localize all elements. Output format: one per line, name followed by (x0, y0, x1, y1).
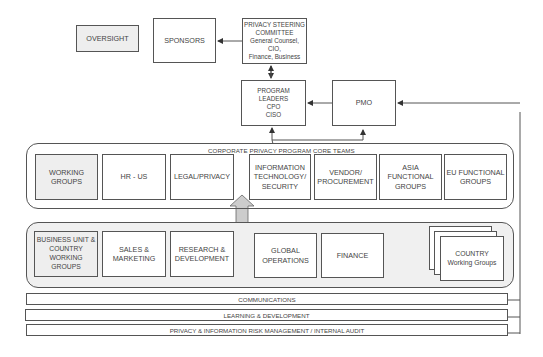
bu-finance: FINANCE (321, 233, 384, 278)
core-team-label: VENDOR/ PROCUREMENT (317, 168, 373, 187)
bu-sales-marketing: SALES & MARKETING (102, 231, 166, 277)
core-teams-title: CORPORATE PRIVACY PROGRAM CORE TEAMS (208, 147, 355, 154)
program-leaders-label: PROGRAM LEADERS CPO CISO (242, 87, 305, 120)
core-team-label: WORKING GROUPS (49, 168, 84, 187)
core-team-asia-functional: ASIA FUNCTIONAL GROUPS (379, 154, 442, 200)
core-team-eu-functional: EU FUNCTIONAL GROUPS (444, 154, 507, 200)
steering-committee-box: PRIVACY STEERING COMMITTEE General Couns… (242, 18, 307, 64)
pmo-box: PMO (332, 80, 396, 126)
core-team-label: INFORMATION TECHNOLOGY/ SECURITY (254, 163, 306, 191)
bu-label: BUSINESS UNIT & COUNTRY WORKING GROUPS (37, 236, 95, 271)
bu-research-development: RESEARCH & DEVELOPMENT (170, 231, 234, 277)
sponsors-label: SPONSORS (164, 36, 205, 45)
country-working-groups-box: COUNTRY Working Groups (440, 236, 504, 281)
communications-bar: COMMUNICATIONS (26, 293, 508, 305)
learning-development-bar: LEARNING & DEVELOPMENT (25, 309, 508, 321)
country-label: COUNTRY Working Groups (448, 250, 497, 268)
core-team-working-groups: WORKING GROUPS (35, 154, 98, 200)
bar-label: LEARNING & DEVELOPMENT (224, 312, 310, 319)
core-team-label: EU FUNCTIONAL GROUPS (447, 168, 505, 187)
pmo-label: PMO (356, 98, 372, 107)
steering-committee-title: PRIVACY STEERING COMMITTEE (244, 21, 305, 37)
core-team-vendor-procurement: VENDOR/ PROCUREMENT (314, 154, 377, 200)
core-team-legal-privacy: LEGAL/PRIVACY (170, 154, 234, 200)
bu-label: SALES & MARKETING (113, 245, 156, 264)
program-leaders-box: PROGRAM LEADERS CPO CISO (241, 80, 306, 126)
core-team-label: LEGAL/PRIVACY (174, 172, 230, 181)
bu-label: GLOBAL OPERATIONS (262, 246, 309, 265)
bar-label: COMMUNICATIONS (238, 296, 295, 303)
core-team-label: HR - US (121, 172, 148, 181)
sponsors-box: SPONSORS (153, 18, 216, 63)
oversight-box: OVERSIGHT (76, 25, 139, 52)
core-team-hr-us: HR - US (102, 154, 166, 200)
steering-committee-members: General Counsel, CIO, Finance, Business (243, 37, 306, 62)
bu-working-groups: BUSINESS UNIT & COUNTRY WORKING GROUPS (34, 231, 98, 277)
bar-label: PRIVACY & INFORMATION RISK MANAGEMENT / … (170, 327, 365, 334)
core-team-it-security: INFORMATION TECHNOLOGY/ SECURITY (249, 154, 311, 200)
bu-label: FINANCE (337, 251, 369, 260)
risk-management-audit-bar: PRIVACY & INFORMATION RISK MANAGEMENT / … (26, 324, 508, 336)
core-team-label: ASIA FUNCTIONAL GROUPS (388, 163, 434, 191)
oversight-label: OVERSIGHT (86, 34, 128, 43)
bu-label: RESEARCH & DEVELOPMENT (175, 245, 229, 264)
bu-global-operations: GLOBAL OPERATIONS (254, 233, 317, 278)
